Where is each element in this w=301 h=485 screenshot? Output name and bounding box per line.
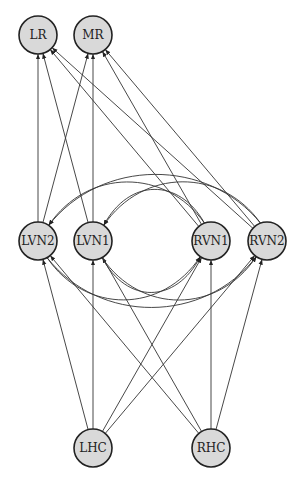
edge-rhc-to-rvn2	[216, 259, 262, 429]
edge-rvn2-to-lvn2	[49, 174, 261, 225]
node-label: MR	[82, 28, 104, 42]
node-rvn2: RVN2	[248, 222, 286, 260]
directed-graph: LRMRLVN2LVN1RVN1RVN2LHCRHC	[0, 0, 301, 485]
node-label: RVN1	[193, 234, 228, 248]
node-lhc: LHC	[74, 429, 112, 467]
node-label: LVN1	[76, 234, 109, 248]
node-label: LVN2	[21, 234, 54, 248]
edge-lvn2-to-rvn1	[47, 257, 200, 300]
node-mr: MR	[74, 16, 112, 54]
node-lvn2: LVN2	[19, 222, 57, 260]
node-label: RVN2	[249, 234, 284, 248]
edge-lvn2-to-rvn2	[47, 257, 256, 308]
edge-rvn2-to-lvn1	[104, 182, 261, 226]
node-lr: LR	[19, 16, 57, 54]
node-label: LR	[29, 28, 47, 42]
edge-lvn1-to-rvn2	[102, 257, 256, 300]
node-rvn1: RVN1	[192, 222, 230, 260]
edge-lhc-to-lvn2	[43, 259, 88, 429]
nodes-layer: LRMRLVN2LVN1RVN1RVN2LHCRHC	[19, 16, 286, 467]
node-rhc: RHC	[192, 429, 230, 467]
node-label: LHC	[79, 441, 107, 455]
node-lvn1: LVN1	[74, 222, 112, 260]
node-label: RHC	[197, 441, 226, 455]
